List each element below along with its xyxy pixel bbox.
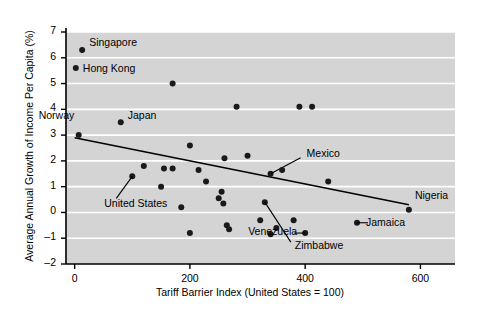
y-tick-label: –2: [30, 256, 56, 268]
data-point: [220, 200, 226, 206]
data-point: [406, 207, 412, 213]
y-tick-label: 1: [30, 179, 56, 191]
data-point: [161, 166, 167, 172]
data-point: [219, 189, 225, 195]
point-label-united-states: United States: [104, 197, 167, 209]
y-tick-label: 7: [30, 24, 56, 36]
data-point: [73, 65, 79, 71]
x-tick-label: 400: [285, 272, 325, 284]
data-point: [234, 104, 240, 110]
point-label-venezuela: Venezuela: [248, 225, 297, 237]
y-tick-label: 4: [30, 101, 56, 113]
point-label-mexico: Mexico: [307, 147, 340, 159]
point-label-singapore: Singapore: [89, 36, 137, 48]
y-tick-label: 3: [30, 127, 56, 139]
data-point: [76, 132, 82, 138]
x-tick-label: 600: [400, 272, 440, 284]
data-point: [118, 119, 124, 125]
chart-figure: Average Annual Growth of Income Per Capi…: [0, 0, 480, 310]
x-tick-label: 200: [170, 272, 210, 284]
data-point: [141, 163, 147, 169]
data-point: [257, 217, 263, 223]
data-point: [226, 226, 232, 232]
data-point: [196, 167, 202, 173]
y-tick-label: 5: [30, 76, 56, 88]
point-label-japan: Japan: [128, 109, 157, 121]
plot-canvas: [0, 0, 480, 310]
y-tick-label: 0: [30, 204, 56, 216]
data-point: [309, 104, 315, 110]
data-point: [178, 204, 184, 210]
y-tick-label: 2: [30, 153, 56, 165]
data-point: [170, 81, 176, 87]
data-point: [325, 179, 331, 185]
point-label-jamaica: Jamaica: [366, 216, 405, 228]
point-label-nigeria: Nigeria: [415, 189, 448, 201]
data-point: [216, 195, 222, 201]
data-point: [221, 155, 227, 161]
point-label-zimbabwe: Zimbabwe: [295, 239, 343, 251]
data-point: [187, 230, 193, 236]
y-tick-label: 6: [30, 50, 56, 62]
x-tick-label: 0: [55, 272, 95, 284]
data-point: [279, 167, 285, 173]
data-point: [79, 47, 85, 53]
data-point: [291, 217, 297, 223]
point-label-hong-kong: Hong Kong: [83, 62, 136, 74]
y-tick-label: –1: [30, 230, 56, 242]
data-point: [187, 142, 193, 148]
data-point: [158, 184, 164, 190]
data-point: [245, 153, 251, 159]
data-point: [170, 166, 176, 172]
data-point: [296, 104, 302, 110]
data-point: [203, 179, 209, 185]
